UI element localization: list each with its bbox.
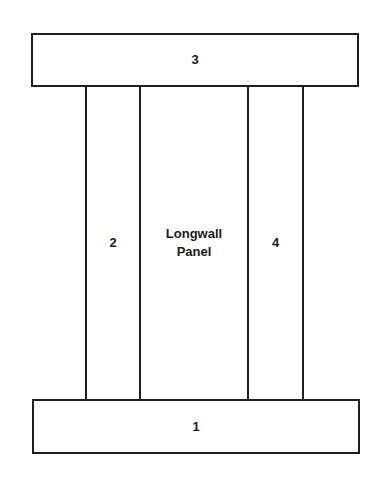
longwall-panel: Longwall Panel bbox=[139, 85, 249, 401]
region-2-label: 2 bbox=[109, 234, 116, 252]
region-1-bottom-entry: 1 bbox=[32, 399, 360, 454]
region-4-label: 4 bbox=[272, 234, 279, 252]
longwall-panel-label: Longwall Panel bbox=[166, 225, 222, 261]
longwall-diagram: 3 2 Longwall Panel 4 1 bbox=[0, 0, 381, 487]
region-3-label: 3 bbox=[191, 51, 198, 69]
panel-label-line2: Panel bbox=[166, 243, 222, 261]
panel-label-line1: Longwall bbox=[166, 225, 222, 243]
region-1-label: 1 bbox=[192, 418, 199, 436]
region-4-right-pillar: 4 bbox=[247, 85, 304, 401]
region-2-left-pillar: 2 bbox=[85, 85, 141, 401]
region-3-top-entry: 3 bbox=[31, 33, 359, 87]
